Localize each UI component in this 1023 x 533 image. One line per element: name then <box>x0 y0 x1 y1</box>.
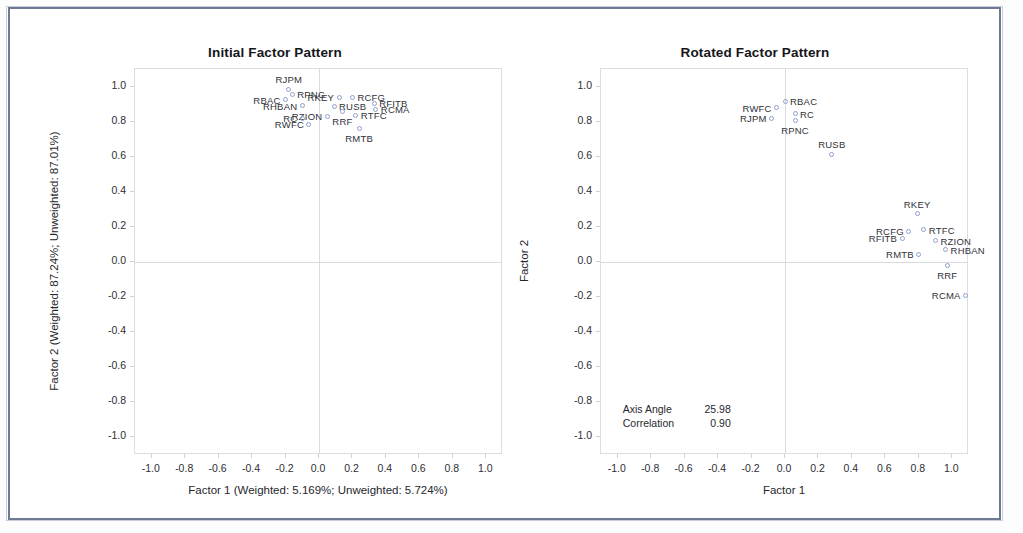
scatter-point-label: RJPM <box>276 74 303 85</box>
y-axis-tick-label: 0.6 <box>92 149 126 161</box>
x-axis-tick-label: -0.4 <box>234 462 268 474</box>
x-tick-mark <box>617 454 618 458</box>
y-tick-mark <box>596 296 600 297</box>
x-tick-mark <box>318 454 319 458</box>
x-tick-mark <box>951 454 952 458</box>
x-tick-mark <box>851 454 852 458</box>
y-axis-tick-label: 0.4 <box>92 184 126 196</box>
scatter-point-marker <box>906 229 911 234</box>
scatter-point-label: RC <box>800 108 814 119</box>
y-tick-mark <box>130 401 134 402</box>
scatter-point-marker <box>921 227 926 232</box>
y-tick-mark <box>130 86 134 87</box>
panel-rotated-factor-pattern: Rotated Factor Pattern RBACRWFCRCRJPMRPN… <box>510 29 1000 519</box>
y-tick-mark <box>596 401 600 402</box>
scatter-point-label: RTFC <box>361 110 387 121</box>
y-axis-tick-label: 0.8 <box>558 114 592 126</box>
scatter-point-marker <box>353 113 358 118</box>
scatter-point-marker <box>357 126 362 131</box>
scatter-point-label: RPNC <box>781 125 809 136</box>
scatter-point-marker <box>916 252 921 257</box>
scatter-point-marker <box>915 211 920 216</box>
x-tick-mark <box>452 454 453 458</box>
x-axis-tick-label: 0.4 <box>834 462 868 474</box>
scatter-point-label: RMTB <box>345 133 373 144</box>
y-axis-tick-label: 0.6 <box>558 149 592 161</box>
y-tick-mark <box>596 156 600 157</box>
annotation-row: Correlation0.90 <box>623 416 731 430</box>
annotation-label: Axis Angle <box>623 402 689 416</box>
x-tick-mark <box>218 454 219 458</box>
scatter-point-label: RUSB <box>818 139 845 150</box>
scatter-point-marker <box>306 122 311 127</box>
x-axis-tick-label: -0.8 <box>167 462 201 474</box>
x-axis-tick-label: -0.8 <box>633 462 667 474</box>
y-axis-tick-label: 1.0 <box>92 79 126 91</box>
panel-initial-title: Initial Factor Pattern <box>30 45 520 60</box>
annotation-value: 0.90 <box>689 416 731 430</box>
scatter-point-marker <box>337 95 342 100</box>
scatter-point-label: RHBAN <box>951 244 985 255</box>
zero-line-vertical <box>319 69 320 453</box>
y-axis-tick-label: -0.4 <box>558 324 592 336</box>
plot-area-rotated: RBACRWFCRCRJPMRPNCRUSBRKEYRCFGRTFCRFITBR… <box>600 68 968 454</box>
scatter-point-label: RHBAN <box>263 100 297 111</box>
y-tick-mark <box>596 226 600 227</box>
x-axis-title: Factor 1 (Weighted: 5.169%; Unweighted: … <box>134 484 502 496</box>
y-tick-mark <box>130 261 134 262</box>
y-axis-tick-label: 1.0 <box>558 79 592 91</box>
y-axis-tick-label: 0.0 <box>558 254 592 266</box>
y-axis-tick-label: 0.4 <box>558 184 592 196</box>
x-tick-mark <box>151 454 152 458</box>
y-axis-tick-label: 0.8 <box>92 114 126 126</box>
y-tick-mark <box>130 436 134 437</box>
x-axis-tick-label: 0.8 <box>901 462 935 474</box>
x-axis-tick-label: 0.0 <box>301 462 335 474</box>
scatter-point-marker <box>943 247 948 252</box>
x-tick-mark <box>684 454 685 458</box>
x-axis-tick-label: 1.0 <box>468 462 502 474</box>
scatter-point-label: RWFC <box>275 119 304 130</box>
y-tick-mark <box>596 436 600 437</box>
x-axis-title: Factor 1 <box>600 484 968 496</box>
x-tick-mark <box>918 454 919 458</box>
scatter-point-marker <box>769 116 774 121</box>
zero-line-horizontal <box>601 262 967 263</box>
x-axis-tick-label: -0.6 <box>667 462 701 474</box>
scatter-point-marker <box>340 109 345 114</box>
y-tick-mark <box>130 191 134 192</box>
x-tick-mark <box>817 454 818 458</box>
scatter-point-marker <box>945 263 950 268</box>
scatter-point-label: RFITB <box>869 233 897 244</box>
scatter-point-label: RCMA <box>932 290 961 301</box>
x-axis-tick-label: 0.0 <box>767 462 801 474</box>
zero-line-horizontal <box>135 262 501 263</box>
x-tick-mark <box>385 454 386 458</box>
scatter-point-marker <box>793 111 798 116</box>
scatter-point-label: RBAC <box>790 96 817 107</box>
screenshot-page: Initial Factor Pattern RJPMRPNCRBACRHBAN… <box>0 0 1023 533</box>
panel-rotated-title: Rotated Factor Pattern <box>510 45 1000 60</box>
x-axis-tick-label: 0.2 <box>334 462 368 474</box>
x-axis-tick-label: -1.0 <box>134 462 168 474</box>
x-tick-mark <box>751 454 752 458</box>
plot-area-initial: RJPMRPNCRBACRHBANRUSBRKEYRCFGRFITBRCMARR… <box>134 68 502 454</box>
y-tick-mark <box>596 331 600 332</box>
x-tick-mark <box>418 454 419 458</box>
y-axis-title: Factor 2 (Weighted: 87.24%; Unweighted: … <box>48 68 60 454</box>
scatter-point-label: RTFC <box>929 224 955 235</box>
x-tick-mark <box>351 454 352 458</box>
page-border: Initial Factor Pattern RJPMRPNCRBACRHBAN… <box>8 7 1001 520</box>
x-tick-mark <box>485 454 486 458</box>
scatter-point-label: RKEY <box>904 199 931 210</box>
x-axis-tick-label: 0.6 <box>401 462 435 474</box>
y-axis-tick-label: -0.6 <box>558 359 592 371</box>
x-axis-tick-label: -0.2 <box>268 462 302 474</box>
x-axis-tick-label: -0.2 <box>734 462 768 474</box>
annotation-row: Axis Angle25.98 <box>623 402 731 416</box>
y-axis-tick-label: 0.0 <box>92 254 126 266</box>
annotation-label: Correlation <box>623 416 689 430</box>
scatter-point-label: RWFC <box>743 102 772 113</box>
y-tick-mark <box>596 261 600 262</box>
x-axis-tick-label: 0.4 <box>368 462 402 474</box>
